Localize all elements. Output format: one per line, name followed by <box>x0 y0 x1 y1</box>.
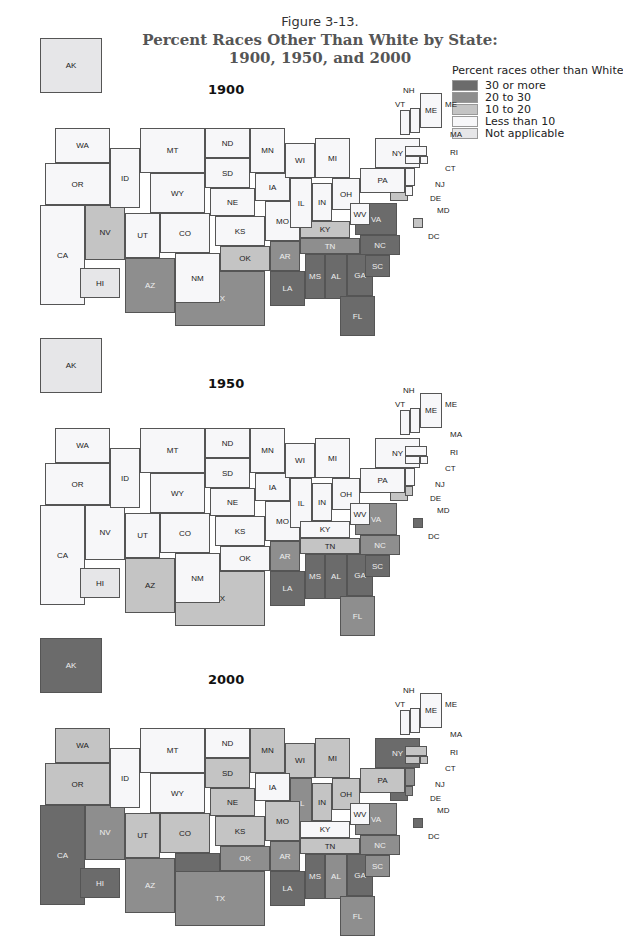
state-de <box>405 486 413 496</box>
state-id: ID <box>110 448 140 508</box>
state-label: NE <box>227 198 238 207</box>
state-ca: CA <box>40 205 85 305</box>
state-label: ME <box>425 706 437 715</box>
state-label: NY <box>392 149 403 158</box>
state-label: MI <box>328 454 337 463</box>
state-nd: ND <box>205 128 250 158</box>
state-label-ri: RI <box>450 748 458 757</box>
state-label: MN <box>261 146 273 155</box>
state-sd: SD <box>205 758 250 788</box>
state-label: TN <box>325 842 336 851</box>
map-year-label: 1900 <box>208 82 244 97</box>
state-label: NC <box>374 541 386 550</box>
state-label-dc: DC <box>428 232 440 241</box>
state-label: CA <box>57 251 68 260</box>
state-hi: HI <box>80 868 120 898</box>
state-nd: ND <box>205 428 250 458</box>
legend-label: Not applicable <box>485 127 564 140</box>
state-label: AZ <box>145 581 155 590</box>
state-ks: KS <box>215 516 265 546</box>
state-label: CO <box>179 229 191 238</box>
state-label: CA <box>57 551 68 560</box>
state-label: CO <box>179 529 191 538</box>
state-label: OK <box>239 554 251 563</box>
state-label: NE <box>227 798 238 807</box>
state-wa: WA <box>55 428 110 463</box>
state-mt: MT <box>140 128 205 173</box>
state-ma <box>405 746 427 756</box>
state-ar: AR <box>270 841 300 871</box>
state-mi: MI <box>315 438 350 478</box>
state-al: AL <box>325 854 347 899</box>
state-label: CA <box>57 851 68 860</box>
state-label: MS <box>309 572 321 581</box>
state-label: ID <box>121 774 129 783</box>
state-or: OR <box>45 763 110 805</box>
state-sc: SC <box>365 855 390 877</box>
state-hi: HI <box>80 268 120 298</box>
state-ma <box>405 446 427 456</box>
map-1900: 1900 LAMSALGASCNCVAFLAZTXARTNNVOKKYWAORC… <box>0 0 470 300</box>
state-label-md: MD <box>437 206 449 215</box>
state-label: NY <box>392 449 403 458</box>
state-ct <box>405 456 420 464</box>
state-label-ma: MA <box>450 430 462 439</box>
state-wa: WA <box>55 128 110 163</box>
state-label: MT <box>167 746 179 755</box>
state-label: OH <box>340 790 352 799</box>
state-mn: MN <box>250 428 285 473</box>
state-in: IN <box>312 783 332 821</box>
state-in: IN <box>312 183 332 221</box>
state-sc: SC <box>365 255 390 277</box>
state-label: SD <box>222 469 233 478</box>
state-label: AL <box>331 872 341 881</box>
state-label: ID <box>121 474 129 483</box>
state-label-vt: VT <box>395 400 405 409</box>
state-mi: MI <box>315 738 350 778</box>
state-label: HI <box>96 279 104 288</box>
state-label: IA <box>269 783 277 792</box>
state-co: CO <box>160 213 210 253</box>
state-label: UT <box>137 231 148 240</box>
state-label: NC <box>374 241 386 250</box>
state-label-ct: CT <box>445 164 456 173</box>
state-co: CO <box>160 513 210 553</box>
state-label: WV <box>354 510 367 519</box>
state-ma <box>405 146 427 156</box>
state-label: HI <box>96 879 104 888</box>
state-label: LA <box>283 884 293 893</box>
state-wa: WA <box>55 728 110 763</box>
state-label: CO <box>179 829 191 838</box>
state-label-nj: NJ <box>435 780 445 789</box>
state-label: IN <box>318 798 326 807</box>
state-label-de: DE <box>430 794 441 803</box>
state-label: IA <box>269 183 277 192</box>
state-label: UT <box>137 531 148 540</box>
state-pa: PA <box>360 768 405 793</box>
state-mn: MN <box>250 128 285 173</box>
state-label: TN <box>325 242 336 251</box>
state-label: NC <box>374 841 386 850</box>
state-label: HI <box>96 579 104 588</box>
state-ri <box>420 756 428 764</box>
state-label: AR <box>279 252 290 261</box>
legend-item-10-to-20: 10 to 20 <box>452 103 615 115</box>
state-label-ma: MA <box>450 130 462 139</box>
state-label: SC <box>372 562 383 571</box>
state-nm: NM <box>175 253 220 303</box>
map-year-label: 1950 <box>208 376 244 391</box>
state-label: MO <box>276 517 289 526</box>
state-label: TN <box>325 542 336 551</box>
state-de <box>405 786 413 796</box>
state-ca: CA <box>40 805 85 905</box>
state-nv: NV <box>85 805 125 860</box>
state-label-vt: VT <box>395 700 405 709</box>
state-label: WI <box>295 456 305 465</box>
legend-item-30-or-more: 30 or more <box>452 79 615 91</box>
state-nj <box>405 168 415 186</box>
state-label: KY <box>320 825 331 834</box>
state-pa: PA <box>360 468 405 493</box>
state-wv: WV <box>350 503 370 525</box>
state-ks: KS <box>215 216 265 246</box>
state-label: IL <box>298 199 305 208</box>
